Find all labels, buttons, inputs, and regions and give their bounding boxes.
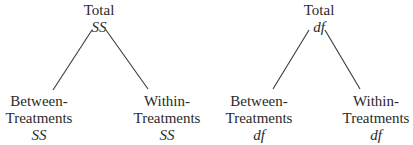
df-between-line1: Between- <box>220 93 298 110</box>
df-between-line2: Treatments <box>220 110 298 127</box>
df-within-symbol: df <box>336 127 413 144</box>
df-total-node: Total df <box>289 2 349 36</box>
ss-between-symbol: SS <box>0 127 78 144</box>
df-connector-left <box>273 30 309 89</box>
df-connector-right <box>325 30 360 89</box>
ss-total-symbol: SS <box>69 19 129 36</box>
ss-total-label: Total <box>69 2 129 19</box>
ss-within-symbol: SS <box>124 127 210 144</box>
ss-partition-tree: Total SS Between- Treatments SS Within- … <box>0 0 210 145</box>
df-within-line2: Treatments <box>336 110 413 127</box>
df-within-node: Within- Treatments df <box>336 93 413 144</box>
ss-connector-right <box>106 30 148 89</box>
ss-within-line2: Treatments <box>124 110 210 127</box>
ss-within-node: Within- Treatments SS <box>124 93 210 144</box>
ss-between-line1: Between- <box>0 93 78 110</box>
ss-between-line2: Treatments <box>0 110 78 127</box>
df-total-symbol: df <box>289 19 349 36</box>
df-partition-tree: Total df Between- Treatments df Within- … <box>210 0 413 145</box>
df-within-line1: Within- <box>336 93 413 110</box>
df-total-label: Total <box>289 2 349 19</box>
ss-between-node: Between- Treatments SS <box>0 93 78 144</box>
ss-within-line1: Within- <box>124 93 210 110</box>
ss-connector-left <box>53 30 92 90</box>
df-between-node: Between- Treatments df <box>220 93 298 144</box>
df-between-symbol: df <box>220 127 298 144</box>
ss-total-node: Total SS <box>69 2 129 36</box>
